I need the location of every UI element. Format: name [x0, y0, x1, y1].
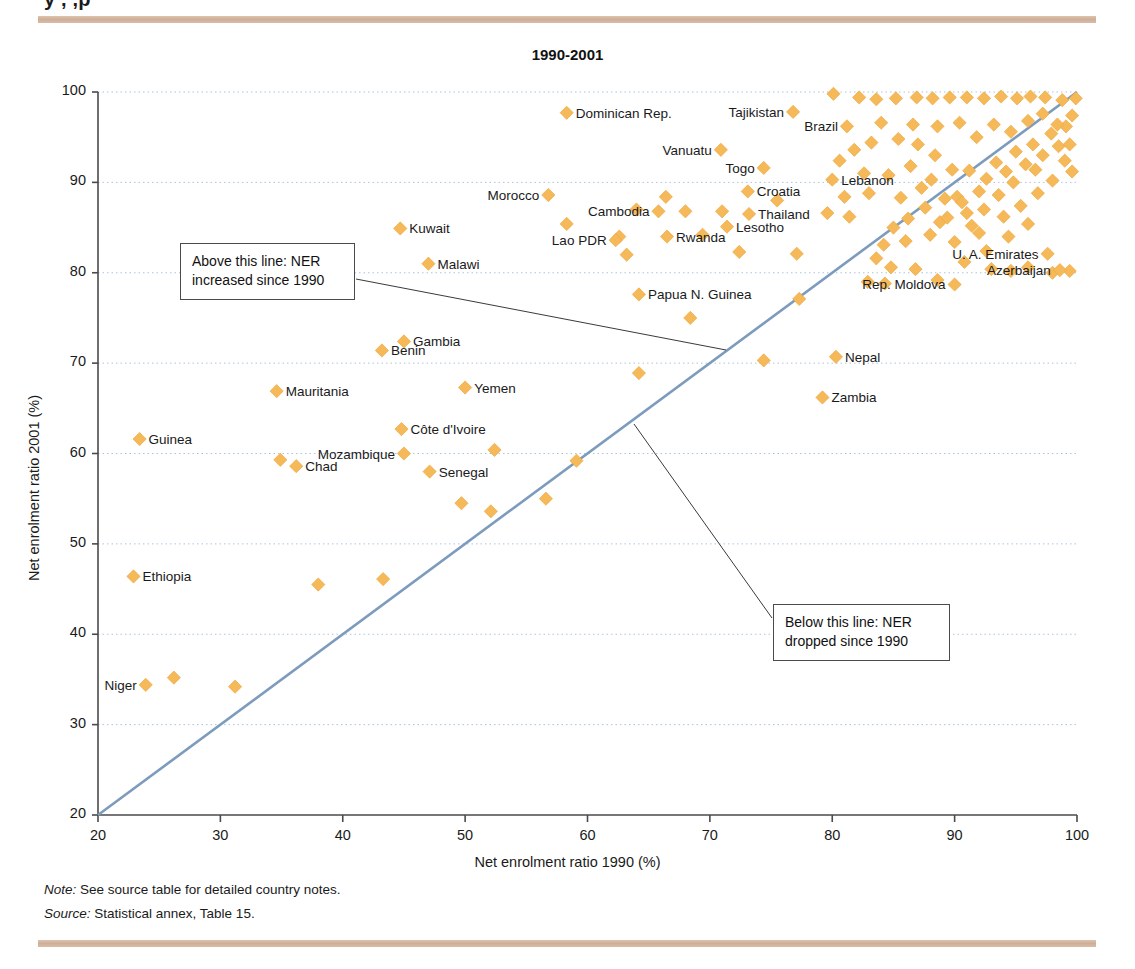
scatter-plot: [0, 0, 1135, 969]
data-point: [848, 143, 861, 156]
point-label-senegal: Senegal: [439, 464, 489, 479]
y-tick-label-80: 80: [42, 263, 86, 279]
data-point-senegal: [423, 465, 436, 478]
data-point: [838, 190, 851, 203]
data-point: [875, 116, 888, 129]
data-point: [915, 181, 928, 194]
data-point: [167, 671, 180, 684]
data-point: [560, 217, 573, 230]
data-point-lebanon: [826, 173, 839, 186]
data-point: [1039, 91, 1052, 104]
point-label-nepal: Nepal: [845, 349, 880, 364]
x-tick-label-70: 70: [685, 827, 735, 843]
y-tick-label-60: 60: [42, 444, 86, 460]
data-point-cambodia: [652, 205, 665, 218]
data-point-rwanda: [660, 230, 673, 243]
data-point: [1010, 92, 1023, 105]
data-point: [757, 354, 770, 367]
data-point-c-te-d-ivoire: [395, 422, 408, 435]
point-label-dominican-rep: Dominican Rep.: [576, 105, 672, 120]
x-tick-label-50: 50: [440, 827, 490, 843]
data-point: [870, 252, 883, 265]
data-point: [1063, 138, 1076, 151]
data-point-ethiopia: [127, 570, 140, 583]
data-point: [632, 366, 645, 379]
x-axis-title: Net enrolment ratio 1990 (%): [0, 854, 1135, 870]
data-point: [980, 172, 993, 185]
data-point: [987, 118, 1000, 131]
point-label-lesotho: Lesotho: [736, 219, 784, 234]
point-label-malawi: Malawi: [437, 256, 479, 271]
x-tick-label-80: 80: [807, 827, 857, 843]
plot-canvas: [0, 0, 1135, 969]
data-point: [790, 247, 803, 260]
data-point: [853, 91, 866, 104]
data-point: [377, 573, 390, 586]
annotation-below-line: Below this line: NER dropped since 1990: [773, 604, 950, 661]
data-point-guinea: [133, 432, 146, 445]
data-point-u-a-emirates: [1041, 247, 1054, 260]
data-point: [928, 149, 941, 162]
source-line: Source: Statistical annex, Table 15.: [44, 906, 255, 921]
annotation-above-line: Above this line: NER increased since 199…: [180, 243, 355, 300]
data-point: [684, 311, 697, 324]
data-point-rep-moldova: [948, 278, 961, 291]
data-point: [821, 207, 834, 220]
point-label-rwanda: Rwanda: [676, 229, 726, 244]
y-tick-label-30: 30: [42, 715, 86, 731]
x-tick-label-40: 40: [318, 827, 368, 843]
data-point: [484, 505, 497, 518]
y-tick-label-90: 90: [42, 172, 86, 188]
data-point: [953, 116, 966, 129]
data-point: [997, 210, 1010, 223]
point-label-croatia: Croatia: [757, 184, 801, 199]
point-label-cambodia: Cambodia: [588, 204, 650, 219]
data-point: [733, 245, 746, 258]
reference-line-equality: [98, 92, 1077, 815]
x-tick-label-100: 100: [1052, 827, 1102, 843]
point-label-zambia: Zambia: [831, 390, 876, 405]
data-point: [999, 165, 1012, 178]
data-point-chad: [290, 460, 303, 473]
data-point: [1052, 140, 1065, 153]
point-label-lao-pdr: Lao PDR: [552, 233, 607, 248]
point-label-azerbaijan: Azerbaijan: [987, 263, 1051, 278]
data-point: [995, 90, 1008, 103]
point-label-mauritania: Mauritania: [286, 384, 349, 399]
data-point: [312, 578, 325, 591]
annotation-below-line-2: dropped since 1990: [785, 632, 938, 651]
data-point: [943, 91, 956, 104]
data-point: [539, 492, 552, 505]
data-point: [1021, 217, 1034, 230]
point-label-ethiopia: Ethiopia: [142, 569, 191, 584]
y-axis-title: Net enrolment ratio 2001 (%): [26, 258, 42, 718]
data-point: [1002, 230, 1015, 243]
point-label-tajikistan: Tajikistan: [729, 104, 785, 119]
data-point: [679, 205, 692, 218]
data-point: [833, 154, 846, 167]
point-label-vanuatu: Vanuatu: [663, 142, 712, 157]
data-point: [228, 680, 241, 693]
data-point-tajikistan: [786, 105, 799, 118]
note-text: See source table for detailed country no…: [76, 882, 340, 897]
data-point-vanuatu: [714, 143, 727, 156]
x-tick-label-30: 30: [195, 827, 245, 843]
point-label-morocco: Morocco: [488, 188, 540, 203]
data-point: [926, 92, 939, 105]
data-point-morocco: [542, 188, 555, 201]
data-point: [1069, 92, 1082, 105]
data-point-malawi: [422, 257, 435, 270]
data-point-brazil: [840, 120, 853, 133]
point-label-guinea: Guinea: [149, 432, 193, 447]
data-point-kuwait: [394, 222, 407, 235]
data-point: [274, 453, 287, 466]
data-point: [919, 201, 932, 214]
data-point: [659, 190, 672, 203]
data-point: [716, 205, 729, 218]
data-point: [884, 261, 897, 274]
x-tick-label-90: 90: [930, 827, 980, 843]
data-point: [1036, 107, 1049, 120]
data-point: [904, 160, 917, 173]
point-label-benin: Benin: [391, 343, 426, 358]
data-point: [1058, 154, 1071, 167]
